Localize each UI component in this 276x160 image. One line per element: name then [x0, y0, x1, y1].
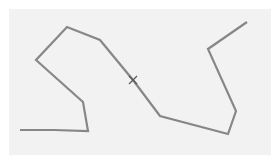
crosshair-icon [129, 76, 137, 84]
drawing-layer[interactable] [0, 0, 276, 160]
drawn-polyline [20, 22, 247, 134]
